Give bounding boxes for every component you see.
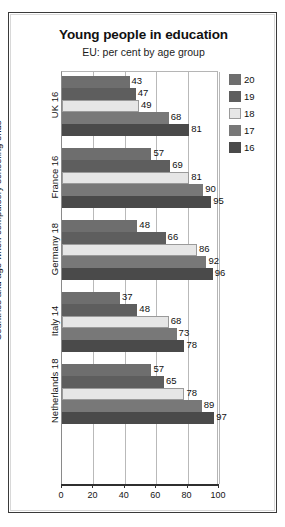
bar bbox=[62, 112, 169, 124]
bar-value-label: 47 bbox=[138, 87, 149, 99]
bar bbox=[62, 400, 202, 412]
bar bbox=[62, 88, 136, 100]
x-axis-tick-label: 40 bbox=[119, 490, 129, 500]
bar-value-label: 57 bbox=[153, 363, 164, 375]
x-axis-tick-label: 60 bbox=[150, 490, 160, 500]
bar bbox=[62, 184, 203, 196]
bar-value-label: 57 bbox=[153, 147, 164, 159]
bar-value-label: 90 bbox=[205, 183, 216, 195]
bar bbox=[62, 172, 189, 184]
y-axis-category-label: Netherlands 18 bbox=[49, 363, 60, 423]
bar bbox=[62, 76, 130, 88]
x-axis-tick bbox=[124, 484, 125, 488]
bar-value-label: 69 bbox=[172, 159, 183, 171]
legend-item[interactable]: 17 bbox=[229, 122, 255, 139]
y-axis-category-label: UK 16 bbox=[49, 75, 60, 135]
y-axis-category-label: Germany 18 bbox=[49, 219, 60, 279]
bar bbox=[62, 220, 137, 232]
bar-value-label: 89 bbox=[204, 399, 215, 411]
bar-value-label: 96 bbox=[215, 267, 226, 279]
x-axis-tick-label: 20 bbox=[87, 490, 97, 500]
bar bbox=[62, 292, 120, 304]
bar-value-label: 43 bbox=[132, 75, 143, 87]
bar-value-label: 86 bbox=[199, 243, 210, 255]
bar-value-label: 78 bbox=[186, 339, 197, 351]
bar-value-label: 49 bbox=[141, 99, 152, 111]
bar bbox=[62, 376, 164, 388]
bar bbox=[62, 100, 139, 112]
bar bbox=[62, 268, 213, 280]
legend-label: 16 bbox=[244, 142, 255, 153]
bar-value-label: 48 bbox=[139, 219, 150, 231]
bar-value-label: 65 bbox=[166, 375, 177, 387]
y-axis-title: Countries and age when compulsory school… bbox=[0, 21, 3, 441]
legend-label: 19 bbox=[244, 91, 255, 102]
legend-swatch-icon bbox=[229, 91, 241, 102]
bar-value-label: 78 bbox=[186, 387, 197, 399]
bar bbox=[62, 232, 166, 244]
x-axis-tick bbox=[218, 484, 219, 488]
bar-value-label: 73 bbox=[179, 327, 190, 339]
legend-swatch-icon bbox=[229, 125, 241, 136]
bar-value-label: 81 bbox=[191, 123, 202, 135]
bar-value-label: 68 bbox=[171, 111, 182, 123]
bar bbox=[62, 244, 197, 256]
bar-value-label: 95 bbox=[213, 195, 224, 207]
legend-label: 17 bbox=[244, 125, 255, 136]
legend-item[interactable]: 18 bbox=[229, 105, 255, 122]
chart-title: Young people in education bbox=[9, 27, 278, 42]
x-axis-tick bbox=[92, 484, 93, 488]
legend-label: 18 bbox=[244, 108, 255, 119]
x-axis-line bbox=[61, 484, 219, 486]
legend-item[interactable]: 19 bbox=[229, 88, 255, 105]
bar bbox=[62, 196, 211, 208]
bar-value-label: 92 bbox=[208, 255, 219, 267]
y-axis-category-label: Italy 14 bbox=[49, 291, 60, 351]
bar bbox=[62, 388, 184, 400]
bar-value-label: 48 bbox=[139, 303, 150, 315]
bar-value-label: 68 bbox=[171, 315, 182, 327]
chart-legend: 2019181716 bbox=[229, 71, 255, 156]
bar bbox=[62, 160, 170, 172]
bar bbox=[62, 316, 169, 328]
x-axis-tick bbox=[61, 484, 62, 488]
legend-swatch-icon bbox=[229, 142, 241, 153]
bar bbox=[62, 328, 177, 340]
bar-value-label: 66 bbox=[168, 231, 179, 243]
bar bbox=[62, 364, 151, 376]
bar bbox=[62, 124, 189, 136]
bar bbox=[62, 412, 214, 424]
bar bbox=[62, 148, 151, 160]
legend-swatch-icon bbox=[229, 108, 241, 119]
x-axis-tick bbox=[155, 484, 156, 488]
bar bbox=[62, 340, 184, 352]
legend-label: 20 bbox=[244, 74, 255, 85]
x-axis-tick-label: 0 bbox=[58, 490, 63, 500]
chart-subtitle: EU: per cent by age group bbox=[9, 46, 278, 58]
bar-value-label: 37 bbox=[122, 291, 133, 303]
legend-item[interactable]: 16 bbox=[229, 139, 255, 156]
legend-swatch-icon bbox=[229, 74, 241, 85]
x-axis-tick bbox=[187, 484, 188, 488]
x-axis-tick-label: 80 bbox=[182, 490, 192, 500]
y-axis-category-label: France 16 bbox=[49, 147, 60, 207]
bar bbox=[62, 256, 206, 268]
bar bbox=[62, 304, 137, 316]
legend-item[interactable]: 20 bbox=[229, 71, 255, 88]
x-axis-tick-label: 100 bbox=[210, 490, 225, 500]
bar-value-label: 81 bbox=[191, 171, 202, 183]
chart-frame: Young people in education EU: per cent b… bbox=[8, 12, 277, 513]
bar-value-label: 97 bbox=[216, 411, 227, 423]
chart-page: Young people in education EU: per cent b… bbox=[0, 0, 285, 527]
